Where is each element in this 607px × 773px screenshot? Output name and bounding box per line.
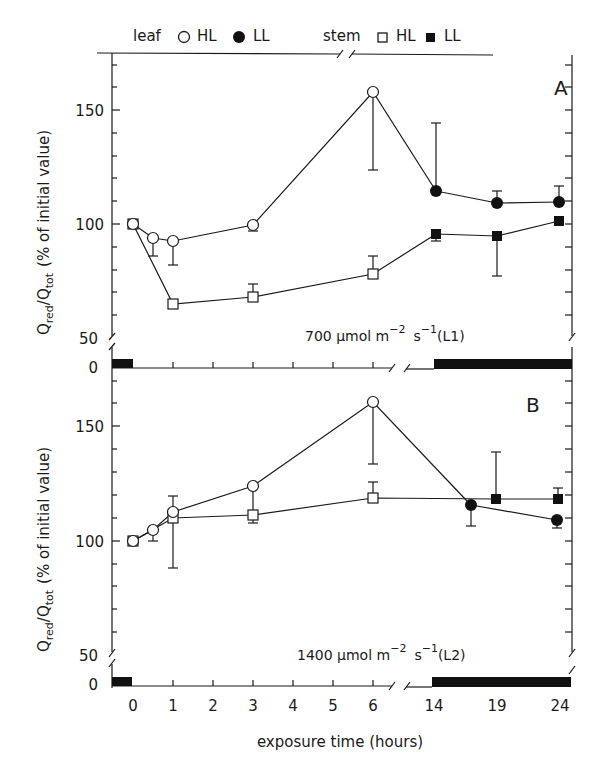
- open-square-icon: [378, 33, 387, 42]
- series-stem-hl-a: [133, 224, 436, 304]
- series-leaf-hl-a: [133, 92, 436, 241]
- svg-text:0: 0: [88, 676, 98, 694]
- y-ticks-right-a: [565, 65, 572, 315]
- svg-text:Qred/Qtot(% of initial value): Qred/Qtot(% of initial value): [35, 130, 56, 335]
- x-axis-label: exposure time (hours): [257, 733, 423, 751]
- svg-text:0: 0: [88, 359, 98, 377]
- legend-leaf-hl: HL: [197, 27, 217, 45]
- dark-period-bar: [112, 677, 132, 686]
- x-tick-labels: 0 1 2 3 4 5 6 14 19 24: [128, 697, 569, 715]
- series-leaf-hl-b: [133, 402, 467, 541]
- panel-letter-a: A: [554, 76, 568, 100]
- svg-text:150: 150: [75, 418, 104, 436]
- error-bars-b: [148, 402, 563, 568]
- exponent: −2: [389, 323, 405, 336]
- y-axis-label-a: Qred/Qtot(% of initial value): [35, 130, 56, 335]
- dark-period-bar: [112, 359, 133, 368]
- filled-square-icon: [426, 33, 435, 42]
- svg-text:1: 1: [168, 697, 178, 715]
- svg-text:50: 50: [79, 647, 98, 665]
- x-ticks-b: [173, 680, 373, 686]
- markers-a: [128, 87, 379, 310]
- light-intensity-text: 700 μmol m: [305, 328, 389, 344]
- light-level-suffix: (L1): [437, 328, 465, 344]
- svg-text:2: 2: [208, 697, 218, 715]
- svg-text:6: 6: [368, 697, 378, 715]
- panel-letter-b: B: [526, 393, 540, 417]
- svg-text:100: 100: [75, 216, 104, 234]
- y-ticks-left-a: [112, 65, 120, 315]
- unit-s: s: [414, 647, 421, 663]
- svg-text:50: 50: [79, 330, 98, 348]
- panel-b: [109, 372, 575, 690]
- y-axis-label-b: Qred/Qtot(% of initial value): [35, 447, 56, 652]
- x-ticks-a: [173, 362, 373, 368]
- dark-period-bar: [432, 677, 571, 687]
- open-circle-icon: [179, 32, 190, 43]
- legend-leaf-ll: LL: [253, 27, 270, 45]
- svg-text:150: 150: [75, 102, 104, 120]
- series-stem-hl-b: [133, 498, 496, 541]
- svg-text:100: 100: [75, 533, 104, 551]
- legend-stem-hl: HL: [396, 27, 416, 45]
- panel-a: [97, 50, 575, 372]
- light-intensity-text: 1400 μmol m: [297, 647, 390, 663]
- figure: leaf HL LL stem HL LL: [0, 0, 607, 773]
- markers-b: [128, 397, 379, 547]
- legend-leaf-label: leaf: [133, 27, 162, 45]
- annotation-a: 700 μmol m−2s−1(L1): [305, 323, 465, 344]
- svg-text:19: 19: [487, 697, 506, 715]
- svg-text:4: 4: [288, 697, 298, 715]
- dark-period-bar: [434, 359, 572, 369]
- series-leaf-ll-b: [471, 505, 557, 520]
- legend-stem-label: stem: [323, 27, 361, 45]
- svg-text:24: 24: [550, 697, 569, 715]
- error-bars-a: [148, 92, 564, 297]
- svg-text:14: 14: [424, 697, 443, 715]
- legend: leaf HL LL stem HL LL: [133, 27, 461, 45]
- svg-text:0: 0: [128, 697, 138, 715]
- annotation-b: 1400 μmol m−2s−1(L2): [297, 642, 466, 663]
- light-level-suffix: (L2): [438, 647, 466, 663]
- exponent: −1: [421, 323, 437, 336]
- svg-text:Qred/Qtot(% of initial value): Qred/Qtot(% of initial value): [35, 447, 56, 652]
- y-ticks-left-b: [112, 381, 120, 632]
- exponent: −2: [390, 642, 406, 655]
- svg-text:700 μmol m−2s−1(L1): 700 μmol m−2s−1(L1): [305, 323, 465, 344]
- y-ticks-right-b: [565, 381, 572, 632]
- svg-text:3: 3: [248, 697, 258, 715]
- exponent: −1: [422, 642, 438, 655]
- unit-s: s: [413, 328, 420, 344]
- filled-circle-icon: [233, 31, 245, 43]
- legend-stem-ll: LL: [444, 27, 461, 45]
- svg-text:5: 5: [328, 697, 338, 715]
- y-tick-labels: 150 100 50 0 150 100 50 0: [75, 102, 104, 694]
- svg-text:1400 μmol m−2s−1(L2): 1400 μmol m−2s−1(L2): [297, 642, 466, 663]
